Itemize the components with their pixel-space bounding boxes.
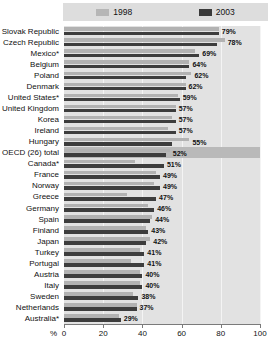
category-label: Portugal — [0, 258, 61, 269]
bar-row: 42% — [64, 236, 260, 247]
bar-2003 — [64, 208, 154, 212]
bar-1998 — [64, 72, 191, 76]
bar-value-label: 40% — [145, 281, 159, 290]
bar-value-label: 47% — [159, 193, 173, 202]
x-axis-unit-label: % — [50, 329, 57, 338]
bar-1998 — [64, 182, 154, 186]
bar-value-label: 57% — [179, 126, 193, 135]
bar-row: 57% — [64, 114, 260, 125]
x-axis-tick — [64, 324, 65, 328]
legend-label-2003: 2003 — [216, 8, 235, 17]
bar-2003 — [64, 197, 156, 201]
bar-2003 — [64, 32, 219, 36]
bar-row: 38% — [64, 291, 260, 302]
category-label: Australia* — [0, 313, 61, 324]
bar-1998 — [64, 94, 178, 98]
x-axis-tick-label: 40 — [138, 329, 147, 338]
bar-row: 44% — [64, 214, 260, 225]
bar-2003 — [64, 109, 176, 113]
bar-1998 — [64, 259, 131, 263]
bar-row: 57% — [64, 103, 260, 114]
category-label: Finland — [0, 225, 61, 236]
category-label: Mexico* — [0, 48, 61, 59]
bar-value-label: 51% — [167, 160, 181, 169]
bar-2003 — [64, 263, 144, 267]
bar-row: 57% — [64, 125, 260, 136]
bar-row: 49% — [64, 169, 260, 180]
bar-2003 — [64, 186, 160, 190]
bar-1998 — [64, 83, 186, 87]
bar-row: 51% — [64, 158, 260, 169]
bar-value-label: 41% — [147, 248, 161, 257]
bar-2003 — [64, 142, 172, 146]
x-axis-tick-label: 80 — [216, 329, 225, 338]
bar-1998 — [64, 193, 127, 197]
category-label: Hungary — [0, 136, 61, 147]
bar-1998 — [64, 314, 119, 318]
bar-value-label: 62% — [194, 71, 208, 80]
category-label: Denmark — [0, 81, 61, 92]
legend-swatch-2003-icon — [199, 9, 212, 16]
category-label: Austria — [0, 269, 61, 280]
bar-2003 — [64, 43, 217, 47]
bar-row: 47% — [64, 191, 260, 202]
plot-area: 79%78%69%64%62%62%59%57%57%57%55%52%51%4… — [64, 26, 261, 324]
bar-1998 — [64, 248, 140, 252]
bar-row: 41% — [64, 247, 260, 258]
bar-1998 — [64, 171, 156, 175]
bar-1998 — [64, 27, 219, 31]
bar-value-label: 52% — [173, 149, 187, 158]
bar-1998 — [64, 270, 140, 274]
bar-2003 — [64, 175, 160, 179]
bar-1998 — [64, 281, 140, 285]
bar-1998 — [64, 149, 170, 153]
bar-value-label: 42% — [153, 237, 167, 246]
bar-value-label: 49% — [163, 182, 177, 191]
category-label: Canada* — [0, 158, 61, 169]
bar-2003 — [64, 164, 164, 168]
bar-2003 — [64, 131, 176, 135]
bar-row: 52% — [64, 147, 260, 158]
bar-1998 — [64, 237, 150, 241]
bar-value-label: 57% — [179, 104, 193, 113]
x-axis-line — [64, 324, 260, 325]
bar-2003 — [64, 307, 137, 311]
bar-value-label: 59% — [183, 93, 197, 102]
bar-row: 62% — [64, 81, 260, 92]
bar-row: 64% — [64, 59, 260, 70]
category-label: Belgium — [0, 59, 61, 70]
bar-value-label: 79% — [222, 27, 236, 36]
x-axis-tick-label: 0 — [62, 329, 66, 338]
bar-row: 43% — [64, 225, 260, 236]
bar-1998 — [64, 138, 189, 142]
category-label: Turkey — [0, 247, 61, 258]
bar-value-label: 62% — [189, 82, 203, 91]
bar-row: 69% — [64, 48, 260, 59]
category-label: France — [0, 169, 61, 180]
bar-1998 — [64, 38, 225, 42]
bar-value-label: 46% — [157, 204, 171, 213]
bar-2003 — [64, 87, 186, 91]
bar-value-label: 29% — [124, 314, 138, 323]
category-label: Poland — [0, 70, 61, 81]
bar-2003 — [64, 285, 142, 289]
bar-2003 — [64, 318, 121, 322]
chart-legend: 1998 2003 — [63, 3, 268, 21]
bar-2003 — [64, 153, 166, 157]
category-label: Korea — [0, 114, 61, 125]
bar-row: 46% — [64, 203, 260, 214]
bar-row: 59% — [64, 92, 260, 103]
bar-2003 — [64, 296, 138, 300]
category-label: Japan — [0, 236, 61, 247]
bar-row: 40% — [64, 269, 260, 280]
bar-1998 — [64, 60, 189, 64]
bar-value-label: 37% — [140, 303, 154, 312]
bar-value-label: 44% — [155, 215, 169, 224]
bar-row: 79% — [64, 26, 260, 37]
bar-row: 29% — [64, 313, 260, 324]
bar-2003 — [64, 252, 144, 256]
bar-1998 — [64, 160, 135, 164]
category-label: Czech Republic — [0, 37, 61, 48]
legend-entry-2003: 2003 — [199, 8, 235, 17]
category-label: United States* — [0, 92, 61, 103]
